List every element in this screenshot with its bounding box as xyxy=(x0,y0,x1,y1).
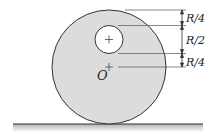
disk-diagram: O R/4 R/2 R/4 xyxy=(0,0,212,140)
dim-label-middle: R/2 xyxy=(185,34,205,47)
ground xyxy=(13,124,203,132)
dim-label-bottom: R/4 xyxy=(185,56,205,69)
dim-label-top: R/4 xyxy=(185,12,205,25)
center-label: O xyxy=(97,68,108,83)
dimension-line xyxy=(181,10,184,67)
